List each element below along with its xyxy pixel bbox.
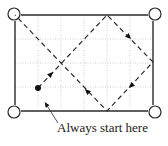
direction-arrows (47, 33, 135, 95)
cue-ball-icon (35, 85, 41, 91)
arrowhead-down-left-icon (127, 82, 135, 90)
arrowhead-shape (47, 70, 55, 78)
pocket-top-right-icon (149, 8, 161, 20)
leader-arrowhead-icon (43, 101, 50, 108)
start-caption: Always start here (57, 120, 148, 136)
caption-leader-arrow (43, 101, 58, 123)
pocket-bottom-right-icon (149, 106, 161, 118)
arrowhead-shape (127, 82, 135, 90)
ball (35, 85, 41, 91)
table-grid (15, 15, 153, 111)
billiard-diagram: Always start here (0, 0, 168, 146)
pocket-bottom-left-icon (8, 106, 20, 118)
arrowhead-up-right-icon (47, 70, 55, 78)
leader-arrowhead-shape (43, 101, 50, 108)
